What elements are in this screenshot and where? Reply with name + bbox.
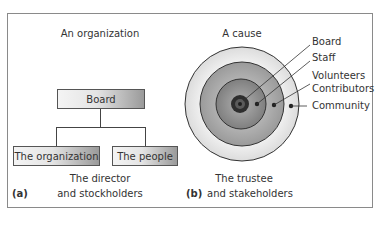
panel-b-caption-line1: The trustee [215, 173, 273, 185]
label-community: Community [312, 100, 370, 112]
ring-board-core [238, 102, 242, 106]
panel-b-label: (b) [186, 188, 202, 200]
label-volunteers: Volunteers [312, 70, 365, 82]
label-staff: Staff [312, 52, 335, 64]
label-board: Board [312, 36, 341, 48]
panel-b-caption-line2: and stakeholders [207, 188, 293, 200]
label-contributors: Contributors [312, 83, 374, 95]
